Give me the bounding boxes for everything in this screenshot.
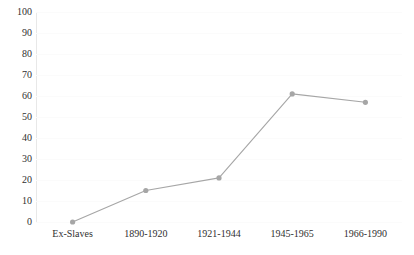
- data-point-marker: [70, 219, 75, 224]
- series-markers: [70, 91, 368, 224]
- data-point-marker: [143, 188, 148, 193]
- data-point-marker: [363, 100, 368, 105]
- series-line: [73, 94, 366, 222]
- line-chart: 0102030405060708090100 Ex-Slaves1890-192…: [0, 0, 414, 255]
- data-point-marker: [290, 91, 295, 96]
- data-point-marker: [216, 175, 221, 180]
- series-layer: [0, 0, 414, 255]
